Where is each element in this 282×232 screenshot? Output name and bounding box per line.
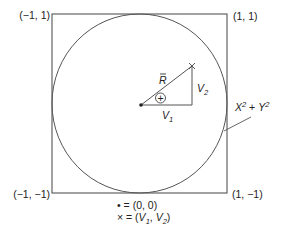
legend-dot-row: • = (0, 0) [117,199,157,211]
corner-label-bottom-left: (−1, −1) [13,188,50,200]
angle-symbol: + [157,92,163,104]
corner-label-top-left: (−1, 1) [19,9,50,21]
legend-cross-row: × = (V1, V2) [117,211,170,226]
circle-equation-label: X2 + Y2 [234,100,270,113]
unit-circle [52,14,227,193]
v2-label: V2 [197,82,209,97]
unit-circle-diagram: + R V2 V1 X2 + Y2 (−1, 1) (1, 1) (−1, −1… [0,0,282,232]
r-letter: R [159,74,167,86]
v1-label: V1 [162,109,173,124]
origin-dot-icon [139,103,143,107]
corner-label-top-right: (1, 1) [233,10,258,22]
angle-theta-icon: + [156,92,166,104]
circle-label-leader [224,117,251,131]
bounding-square [52,14,227,193]
legend: • = (0, 0) × = (V1, V2) [117,199,170,226]
vector-r-label: R [159,74,167,86]
corner-label-bottom-right: (1, −1) [232,188,263,200]
